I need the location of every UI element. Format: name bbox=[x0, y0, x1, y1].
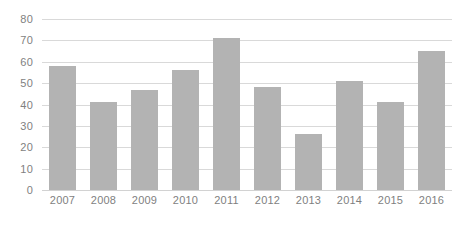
y-tick-label: 10 bbox=[20, 163, 33, 175]
bar bbox=[172, 70, 199, 190]
bar bbox=[131, 90, 158, 190]
x-tick-label: 2015 bbox=[370, 194, 411, 206]
y-tick-label: 20 bbox=[20, 141, 33, 153]
bar bbox=[213, 38, 240, 190]
bar-series bbox=[42, 19, 452, 190]
y-tick-label: 40 bbox=[20, 99, 33, 111]
y-tick-label: 50 bbox=[20, 77, 33, 89]
y-tick-label: 70 bbox=[20, 34, 33, 46]
x-tick-label: 2016 bbox=[411, 194, 452, 206]
bar bbox=[377, 102, 404, 190]
x-tick-label: 2014 bbox=[329, 194, 370, 206]
x-tick-label: 2009 bbox=[124, 194, 165, 206]
y-axis: 01020304050607080 bbox=[0, 0, 42, 226]
x-tick-label: 2012 bbox=[247, 194, 288, 206]
bar-chart: 01020304050607080 2007200820092010201120… bbox=[0, 0, 461, 226]
x-tick-label: 2010 bbox=[165, 194, 206, 206]
bar bbox=[90, 102, 117, 190]
x-tick-label: 2007 bbox=[42, 194, 83, 206]
gridline bbox=[42, 190, 452, 191]
bar bbox=[49, 66, 76, 190]
y-tick-label: 80 bbox=[20, 13, 33, 25]
bar bbox=[336, 81, 363, 190]
y-tick-label: 60 bbox=[20, 56, 33, 68]
x-axis: 2007200820092010201120122013201420152016 bbox=[42, 194, 452, 218]
y-tick-label: 0 bbox=[27, 184, 33, 196]
plot-area bbox=[42, 19, 452, 190]
y-tick-label: 30 bbox=[20, 120, 33, 132]
x-tick-label: 2008 bbox=[83, 194, 124, 206]
x-tick-label: 2011 bbox=[206, 194, 247, 206]
bar bbox=[254, 87, 281, 190]
x-tick-label: 2013 bbox=[288, 194, 329, 206]
bar bbox=[418, 51, 445, 190]
bar bbox=[295, 134, 322, 190]
